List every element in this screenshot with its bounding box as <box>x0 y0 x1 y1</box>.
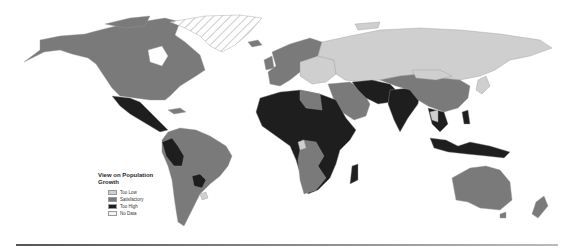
region-uruguay[interactable] <box>200 192 208 200</box>
legend-item-no-data: No Data <box>108 210 158 217</box>
legend-item-too-low: Too Low <box>108 189 158 196</box>
region-caribbean[interactable] <box>168 108 186 114</box>
region-mexico-central-america[interactable] <box>112 96 168 132</box>
region-australia[interactable] <box>452 166 512 210</box>
legend-swatch <box>108 190 117 195</box>
legend-swatch <box>108 197 117 202</box>
legend-item-satisfactory: Satisfactory <box>108 196 158 203</box>
region-iceland[interactable] <box>248 40 262 47</box>
region-philippines[interactable] <box>462 110 470 124</box>
region-new-zealand[interactable] <box>532 196 548 218</box>
legend-label: Too High <box>120 204 138 209</box>
region-north-america[interactable] <box>24 18 205 100</box>
region-tasmania[interactable] <box>500 212 506 218</box>
legend-item-too-high: Too High <box>108 203 158 210</box>
legend-label: Too Low <box>120 190 137 195</box>
region-uk[interactable] <box>264 56 274 70</box>
footer-rule <box>16 244 558 246</box>
legend-swatch <box>108 204 117 209</box>
legend-swatch <box>108 211 117 216</box>
world-map <box>0 0 574 252</box>
region-russian-arctic-islands[interactable] <box>355 22 380 30</box>
region-arctic-islands[interactable] <box>105 16 150 28</box>
region-indonesia[interactable] <box>430 138 510 158</box>
region-japan[interactable] <box>476 76 490 94</box>
legend-label: Satisfactory <box>120 197 144 202</box>
legend-label: No Data <box>120 211 137 216</box>
region-eastern-europe[interactable] <box>300 56 336 84</box>
legend-title: View on Population Growth <box>98 172 158 185</box>
region-madagascar[interactable] <box>350 164 358 184</box>
legend: View on Population Growth Too Low Satisf… <box>98 172 158 217</box>
